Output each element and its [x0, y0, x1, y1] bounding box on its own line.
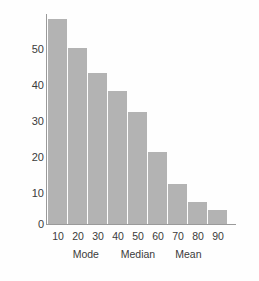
bar	[168, 184, 187, 224]
bar	[188, 202, 207, 224]
y-tick-label: 30	[4, 116, 44, 127]
x-axis-tick-labels: 10 20 30 40 50 60 70 80 90	[48, 230, 228, 242]
y-tick-label: 40	[4, 80, 44, 91]
bar	[148, 152, 167, 224]
y-axis-line	[46, 14, 47, 225]
bar-chart: 50 40 30 20 10 0 10 20 30 40 50 60 70 80…	[0, 0, 259, 281]
x-tick-label: 80	[188, 230, 208, 242]
x-tick-label: 40	[108, 230, 128, 242]
y-tick-label: 20	[4, 152, 44, 163]
bar	[108, 91, 127, 224]
annotation-median: Median	[121, 248, 155, 260]
y-tick-label: 0	[4, 219, 44, 230]
x-tick-label: 20	[68, 230, 88, 242]
annotation-mode: Mode	[73, 248, 99, 260]
x-tick-label: 30	[88, 230, 108, 242]
bar	[128, 112, 147, 224]
x-tick-label: 90	[208, 230, 228, 242]
x-tick-label: 10	[48, 230, 68, 242]
bar	[48, 19, 67, 224]
y-tick-label: 10	[4, 188, 44, 199]
x-tick-label: 60	[148, 230, 168, 242]
y-axis-tick-labels: 50 40 30 20 10 0	[0, 0, 44, 281]
bar	[88, 73, 107, 224]
y-tick-label: 50	[4, 44, 44, 55]
bar-series	[48, 22, 228, 224]
x-tick-label: 50	[128, 230, 148, 242]
annotation-mean: Mean	[175, 248, 201, 260]
x-axis-line	[46, 224, 236, 225]
statistic-annotations: Mode Median Mean	[48, 248, 228, 262]
bar	[208, 210, 227, 224]
bar	[68, 48, 87, 224]
x-tick-label: 70	[168, 230, 188, 242]
